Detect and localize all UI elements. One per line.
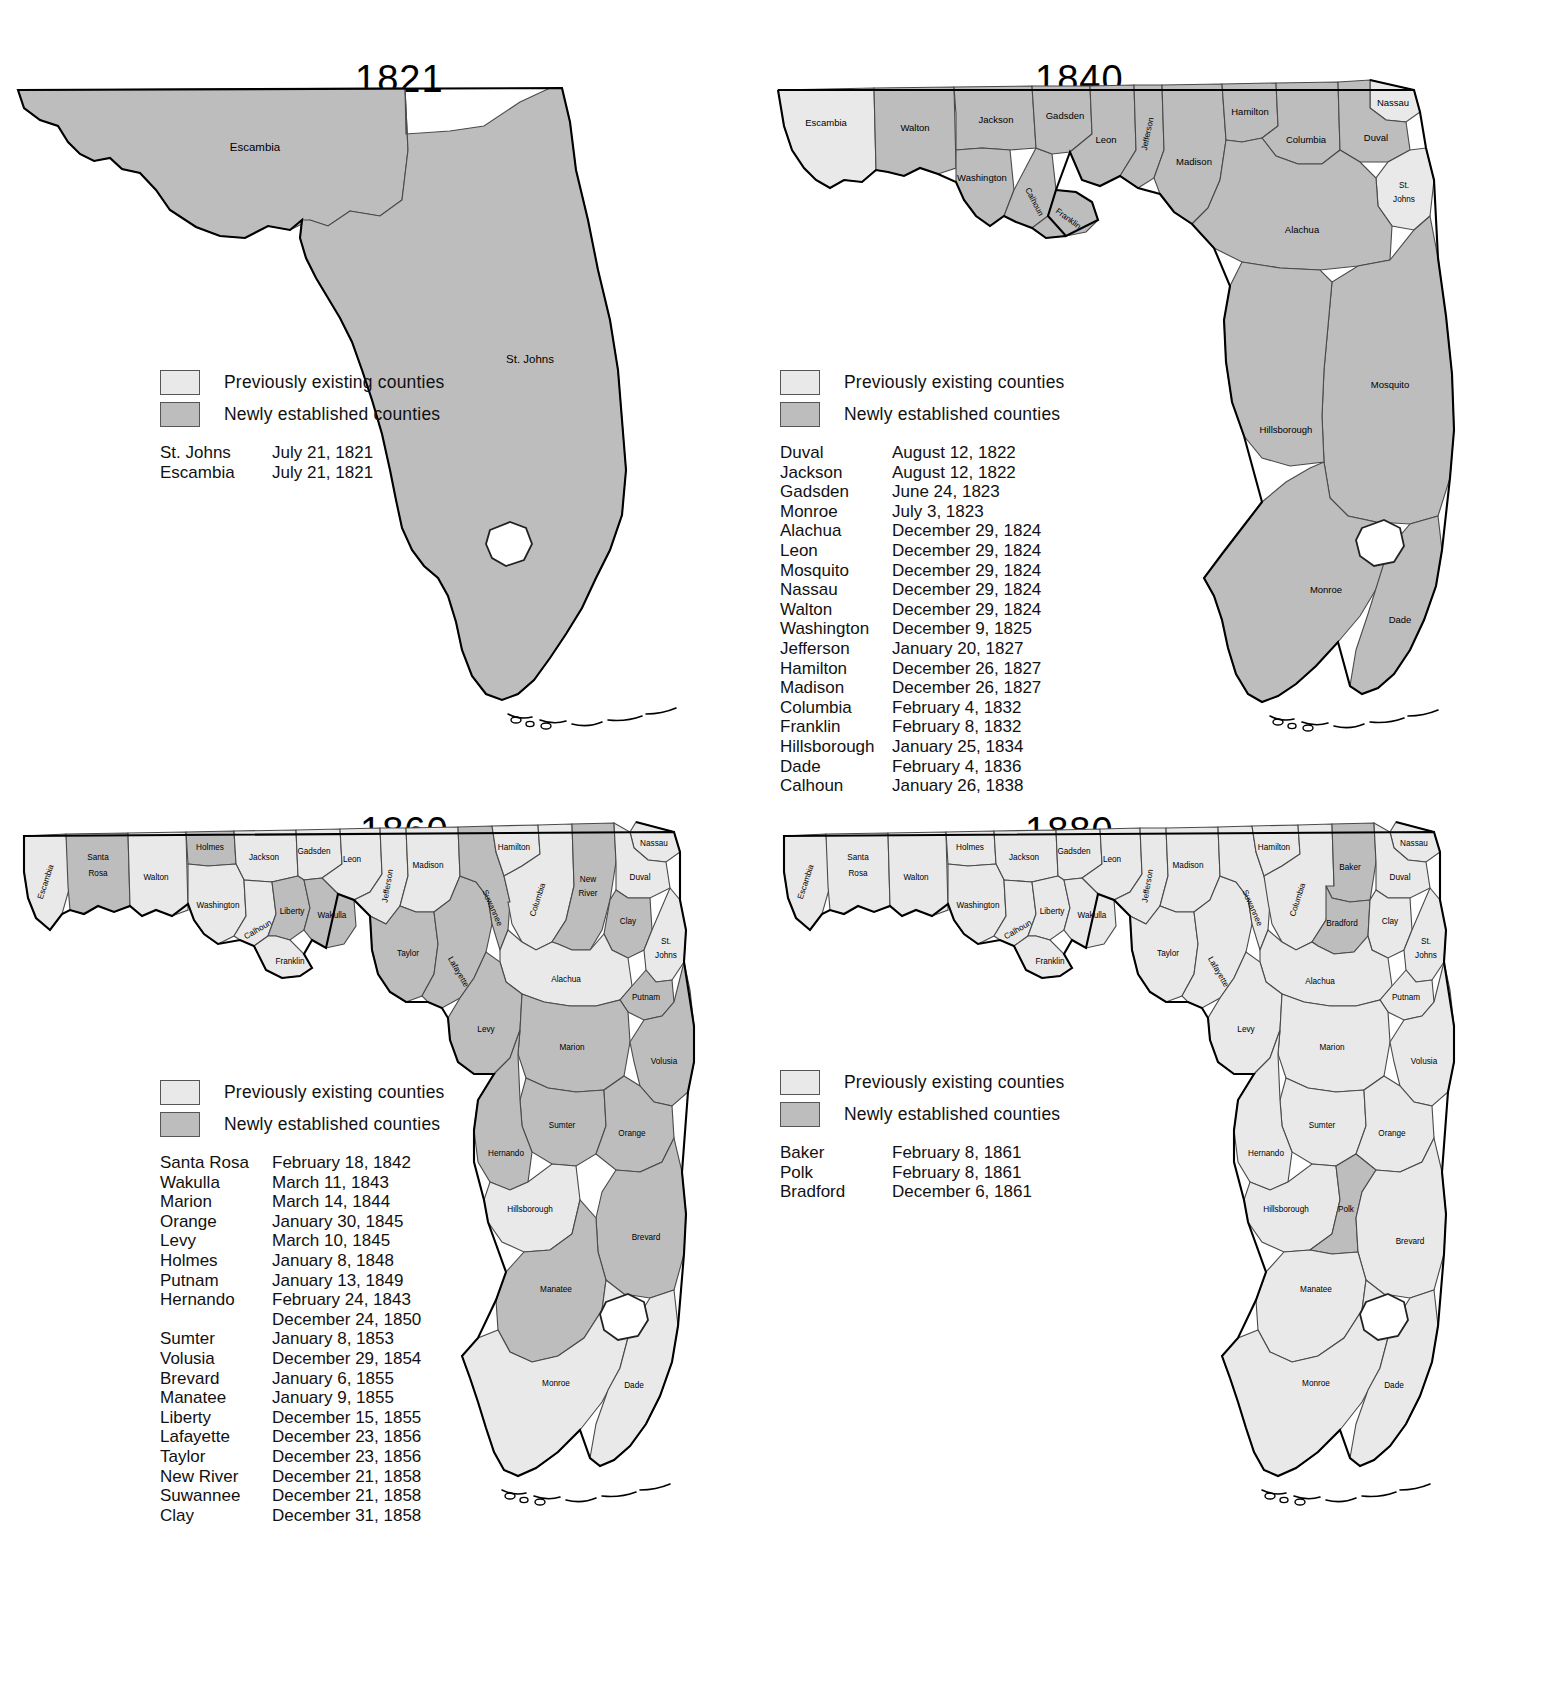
county-list-row: LafayetteDecember 23, 1856 (160, 1427, 445, 1447)
map-label-jackson-1880: Jackson (1009, 853, 1039, 862)
county-date: February 4, 1836 (892, 757, 1021, 777)
map-label-dade-1840: Dade (1389, 614, 1412, 625)
county-name: Monroe (780, 502, 892, 522)
county-date: December 29, 1824 (892, 521, 1041, 541)
map-label-escambia-1821: Escambia (230, 141, 281, 153)
county-name: Alachua (780, 521, 892, 541)
county-date: February 8, 1861 (892, 1143, 1021, 1163)
map-label-st-1880: St. (1421, 937, 1431, 946)
county-date: February 4, 1832 (892, 698, 1021, 718)
county-name: Sumter (160, 1329, 272, 1349)
map-label-hernando-1860: Hernando (488, 1149, 524, 1158)
map-label-liberty-1880: Liberty (1040, 907, 1065, 916)
map-label-marion-1880: Marion (1319, 1043, 1344, 1052)
panel-1880: 1880 (770, 790, 1530, 1610)
county-list-row: TaylorDecember 23, 1856 (160, 1447, 445, 1467)
county-date: December 23, 1856 (272, 1447, 421, 1467)
map-label-manatee-1880: Manatee (1300, 1285, 1332, 1294)
map-label-new-1860: New (580, 875, 596, 884)
county-date: December 29, 1824 (892, 541, 1041, 561)
county-name: Madison (780, 678, 892, 698)
county-date: December 29, 1824 (892, 580, 1041, 600)
county-list-row: WakullaMarch 11, 1843 (160, 1173, 445, 1193)
county-list-row: WashingtonDecember 9, 1825 (780, 619, 1065, 639)
county-date: January 13, 1849 (272, 1271, 403, 1291)
county-list-row: MosquitoDecember 29, 1824 (780, 561, 1065, 581)
map-label-nassau-1860: Nassau (640, 839, 668, 848)
county-name: Taylor (160, 1447, 272, 1467)
county-date: January 25, 1834 (892, 737, 1023, 757)
county-list-row: BradfordDecember 6, 1861 (780, 1182, 1065, 1202)
map-label-orange-1860: Orange (618, 1129, 646, 1138)
county-name: Duval (780, 443, 892, 463)
county-name: Brevard (160, 1369, 272, 1389)
county-date: January 30, 1845 (272, 1212, 403, 1232)
map-label-alachua-1860: Alachua (551, 975, 581, 984)
county-name: Wakulla (160, 1173, 272, 1193)
map-label-sumter-1860: Sumter (549, 1121, 576, 1130)
county-list-row: HamiltonDecember 26, 1827 (780, 659, 1065, 679)
county-list-row: ManateeJanuary 9, 1855 (160, 1388, 445, 1408)
county-name: Walton (780, 600, 892, 620)
county-name: Washington (780, 619, 892, 639)
legend-swatch-new-icon (780, 1102, 820, 1127)
county-name: Nassau (780, 580, 892, 600)
map-label-bradford-1880: Bradford (1326, 919, 1358, 928)
county-name: Hillsborough (780, 737, 892, 757)
panel-1821: 1821 Escambia St. Johns Previ (10, 30, 770, 850)
map-label-holmes-1860: Holmes (196, 843, 224, 852)
county-list-row: Santa RosaFebruary 18, 1842 (160, 1153, 445, 1173)
panel-1860: 1860 (10, 790, 770, 1610)
map-label-monroe-1860: Monroe (542, 1379, 570, 1388)
map-label-gadsden-1860: Gadsden (297, 847, 331, 856)
map-label-escambia-1840: Escambia (805, 117, 847, 128)
county-list-row: LibertyDecember 15, 1855 (160, 1408, 445, 1428)
legend-label-new: Newly established counties (224, 1114, 440, 1135)
map-label-taylor-1880: Taylor (1157, 949, 1179, 958)
map-label-franklin-1880: Franklin (1035, 957, 1065, 966)
legend-swatch-previous-icon (780, 1070, 820, 1095)
map-label-orange-1880: Orange (1378, 1129, 1406, 1138)
county-name: Manatee (160, 1388, 272, 1408)
map-label-gadsden-1840: Gadsden (1046, 110, 1085, 121)
county-name: Suwannee (160, 1486, 272, 1506)
county-name: Jackson (780, 463, 892, 483)
county-date: December 29, 1824 (892, 600, 1041, 620)
county-date: December 21, 1858 (272, 1467, 421, 1487)
map-label-marion-1860: Marion (559, 1043, 584, 1052)
legend-label-previous: Previously existing counties (844, 1072, 1065, 1093)
map-label-leon-1860: Leon (343, 855, 362, 864)
county-list-row: LevyMarch 10, 1845 (160, 1231, 445, 1251)
map-label-liberty-1860: Liberty (280, 907, 305, 916)
map-label-putnam-1860: Putnam (632, 993, 660, 1002)
county-date: December 9, 1825 (892, 619, 1032, 639)
map-label-hernando-1880: Hernando (1248, 1149, 1284, 1158)
legend-label-previous: Previously existing counties (224, 372, 445, 393)
legend-1840: Previously existing counties Newly estab… (780, 370, 1065, 796)
county-list-row: HolmesJanuary 8, 1848 (160, 1251, 445, 1271)
map-label-polk-1880: Polk (1338, 1205, 1355, 1214)
map-label-dade-1860: Dade (624, 1381, 644, 1390)
county-list-row: MarionMarch 14, 1844 (160, 1192, 445, 1212)
county-date: December 24, 1850 (272, 1310, 421, 1330)
map-label-madison-1860: Madison (413, 861, 444, 870)
county-list-row: PolkFebruary 8, 1861 (780, 1163, 1065, 1183)
county-date: December 21, 1858 (272, 1486, 421, 1506)
county-date: February 8, 1861 (892, 1163, 1021, 1183)
legend-label-new: Newly established counties (224, 404, 440, 425)
county-list-row: FranklinFebruary 8, 1832 (780, 717, 1065, 737)
map-label-hillsborough-1860: Hillsborough (507, 1205, 553, 1214)
map-label-jackson-1840: Jackson (979, 114, 1014, 125)
county-list-row: December 24, 1850 (160, 1310, 445, 1330)
map-label-sumter-1880: Sumter (1309, 1121, 1336, 1130)
map-label-hamilton-1840: Hamilton (1231, 106, 1269, 117)
county-name: Hamilton (780, 659, 892, 679)
county-list-row: SuwanneeDecember 21, 1858 (160, 1486, 445, 1506)
county-date: December 15, 1855 (272, 1408, 421, 1428)
county-date: January 20, 1827 (892, 639, 1023, 659)
map-label-st-johns-1840: St. (1399, 181, 1409, 190)
map-label-washington-1840: Washington (957, 172, 1007, 183)
county-name: Baker (780, 1143, 892, 1163)
county-list-row: ClayDecember 31, 1858 (160, 1506, 445, 1526)
legend-row-previous: Previously existing counties (160, 1080, 445, 1105)
